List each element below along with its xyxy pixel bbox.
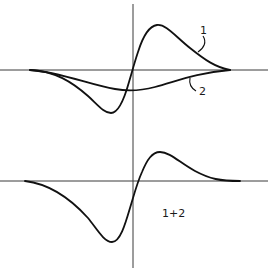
label-1-leader	[198, 36, 205, 52]
diagram-figure: 1 2 1+2	[0, 0, 268, 269]
curve-1	[30, 25, 230, 113]
top-panel: 1 2	[0, 4, 268, 135]
sum-label: 1+2	[162, 207, 185, 220]
bottom-panel: 1+2	[0, 135, 268, 268]
label-2-leader	[190, 78, 196, 91]
curve-2-label: 2	[199, 85, 206, 98]
curve-1-label: 1	[200, 24, 207, 37]
